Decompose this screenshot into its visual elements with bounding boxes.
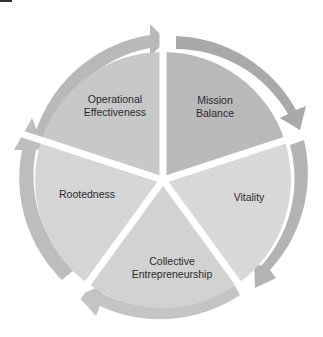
label-vitality: Vitality (234, 191, 265, 204)
label-operational-effectiveness: Operational Effectiveness (84, 93, 146, 119)
label-line: Operational (84, 93, 146, 106)
label-collective-entrepreneurship: Collective Entrepreneurship (132, 255, 213, 281)
label-mission-balance: Mission Balance (196, 94, 234, 120)
label-line: Collective (132, 255, 213, 268)
label-line: Effectiveness (84, 106, 146, 119)
label-rootedness: Rootedness (59, 188, 115, 201)
label-line: Rootedness (59, 188, 115, 201)
label-line: Entrepreneurship (132, 268, 213, 281)
label-line: Mission (196, 94, 234, 107)
label-line: Vitality (234, 191, 265, 204)
label-line: Balance (196, 107, 234, 120)
cycle-diagram (0, 0, 323, 337)
